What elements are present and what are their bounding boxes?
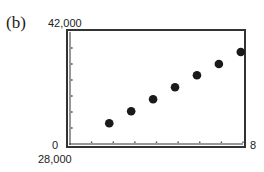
- scatter-plot: [0, 0, 264, 172]
- data-point: [127, 107, 136, 116]
- data-point: [149, 95, 158, 104]
- data-point: [105, 119, 114, 128]
- data-point: [193, 71, 202, 80]
- data-point: [171, 83, 180, 92]
- data-point: [215, 60, 224, 69]
- data-point: [237, 48, 246, 57]
- plot-frame: [67, 30, 245, 147]
- data-points: [105, 48, 245, 128]
